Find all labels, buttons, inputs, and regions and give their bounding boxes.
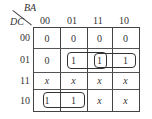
group-loop [94, 53, 136, 68]
cell: x [34, 76, 60, 86]
group-loop [43, 92, 85, 108]
cell: 0 [34, 34, 60, 44]
col-variable-label: BA [24, 3, 36, 13]
cell: x [87, 96, 112, 106]
col-label: 11 [93, 16, 103, 26]
cell: x [112, 96, 139, 106]
col-label: 10 [119, 16, 129, 26]
cell: 0 [112, 34, 139, 44]
cell: 0 [87, 34, 112, 44]
col-label: 00 [40, 16, 50, 26]
row-label: 00 [20, 33, 30, 43]
row-label: 10 [20, 96, 30, 106]
row-label: 01 [20, 55, 30, 65]
col-label: 01 [67, 16, 77, 26]
kmap-grid: 0 0 0 0 0 1 1 1 x x x x 1 1 x x [33, 27, 140, 112]
row-variable-label: DC [10, 17, 24, 27]
cell: 0 [60, 34, 87, 44]
cell: 0 [34, 56, 60, 66]
cell: x [87, 76, 112, 86]
row-label: 11 [20, 76, 30, 86]
cell: x [60, 76, 87, 86]
cell: x [112, 76, 139, 86]
